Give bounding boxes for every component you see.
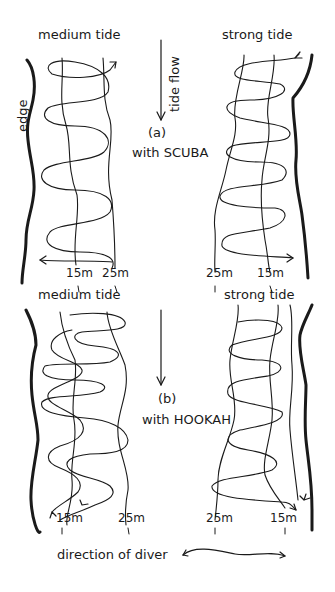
contour-15m-b <box>60 312 76 525</box>
panel-a-left-depth-25m: 25m <box>102 267 129 279</box>
panel-b-left-depth-25m: 25m <box>118 512 145 524</box>
contour-outer-b-strong <box>290 305 298 500</box>
panel-b-left-depth-15m: 15m <box>56 512 83 524</box>
panel-a-right-depth-15m: 15m <box>257 267 284 279</box>
edge-label: edge <box>16 100 29 133</box>
contour-25m-b <box>107 312 128 525</box>
panel-a-right-title: strong tide <box>222 28 292 41</box>
arrow-head-a-strong-start <box>295 52 302 58</box>
arrow-head-b-medium-2 <box>80 500 88 505</box>
diver-track-b-medium <box>42 313 128 520</box>
diver-track-b-medium-2 <box>48 330 84 512</box>
panel-b-left-title: medium tide <box>38 288 121 301</box>
panel-a-right-depth-25m: 25m <box>206 267 233 279</box>
panel-b-right-title: strong tide <box>224 288 294 301</box>
contour-15m-a-strong <box>261 55 274 272</box>
shore-edge-a-right <box>293 55 312 278</box>
contour-25m-a-strong <box>214 55 244 272</box>
tide-flow-label: tide flow <box>168 56 181 112</box>
panel-a-left-title: medium tide <box>38 28 121 41</box>
panel-a-caption: with SCUBA <box>132 146 208 159</box>
panel-a-left-depth-15m: 15m <box>66 267 93 279</box>
direction-of-diver-label: direction of diver <box>57 548 168 561</box>
panel-b-tag: (b) <box>158 392 176 405</box>
direction-of-diver-arrow <box>183 549 285 556</box>
shore-edge-b-left <box>26 310 40 532</box>
panel-b-caption: with HOOKAH <box>142 413 231 426</box>
panel-a-tag: (a) <box>148 126 166 139</box>
diver-track-a-strong <box>220 58 295 258</box>
arrow-head-b-strong-2 <box>300 494 310 500</box>
contour-15m-b-strong <box>264 305 285 508</box>
depth-ticks-b <box>62 528 285 534</box>
shore-edge-a-left <box>22 60 34 283</box>
panel-b-right-depth-25m: 25m <box>206 512 233 524</box>
panel-b-right-depth-15m: 15m <box>270 512 297 524</box>
